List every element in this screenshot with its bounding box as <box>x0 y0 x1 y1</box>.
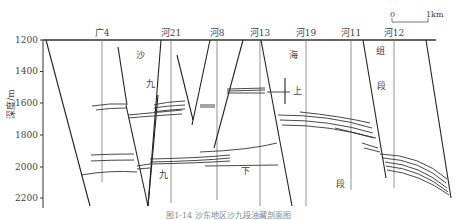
well-label-he21: 河21 <box>161 27 181 38</box>
strata-label-sha: 沙 <box>136 50 145 60</box>
tick-2000: 2000 <box>15 162 38 172</box>
strata-label-hai: 海 <box>289 49 298 60</box>
well-label-he19: 河19 <box>296 27 317 38</box>
strata-label-jiu-lower: 九 <box>159 170 168 180</box>
tick-2200: 2200 <box>15 193 38 203</box>
tick-1400: 1400 <box>15 66 38 76</box>
strata-label-duan-upper: 段 <box>377 80 386 91</box>
strata-label-zu: 组 <box>376 45 385 56</box>
strata-labels: 沙 九 海 上 组 段 九 下 段 <box>136 45 386 189</box>
strata-label-xia: 下 <box>241 166 250 176</box>
scale-end: 1km <box>426 10 444 19</box>
fault-lines <box>46 40 451 206</box>
strata-label-duan-lower: 段 <box>336 178 345 189</box>
strata-label-shang: 上 <box>293 86 302 96</box>
well-label-he12: 河12 <box>384 27 404 38</box>
well-label-he13: 河13 <box>250 27 271 38</box>
well-labels: 广4 河21 河8 河13 河19 河11 河12 <box>95 27 405 38</box>
well-label-guang4: 广4 <box>95 27 110 38</box>
cross-section-figure: 1200 1400 1600 1800 2000 2200 深度/m 0 1km… <box>0 0 457 220</box>
figure-caption: 图1-14 沙东地区沙九段油藏剖面图 <box>0 209 457 220</box>
well-label-he11: 河11 <box>341 27 361 38</box>
well-lines <box>102 40 394 206</box>
scale-start: 0 <box>390 10 395 19</box>
well-label-he8: 河8 <box>210 27 225 38</box>
depth-axis-label: 深度/m <box>5 89 16 119</box>
tick-1200: 1200 <box>15 35 38 45</box>
strata-label-jiu-upper: 九 <box>146 79 155 89</box>
tick-1600: 1600 <box>15 98 38 108</box>
depth-tick-labels: 1200 1400 1600 1800 2000 2200 <box>15 35 38 203</box>
scale-bar: 0 1km <box>390 10 444 22</box>
tick-1800: 1800 <box>15 130 38 140</box>
